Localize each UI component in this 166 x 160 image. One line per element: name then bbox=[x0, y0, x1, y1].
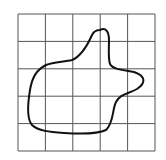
grid-lines bbox=[18, 14, 155, 151]
grid-diagram bbox=[0, 0, 166, 160]
